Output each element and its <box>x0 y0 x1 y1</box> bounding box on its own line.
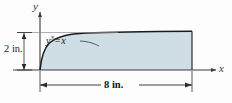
x-axis-arrow-icon <box>211 68 216 72</box>
x-axis-label: x <box>219 63 224 74</box>
width-dimension-label: 8 in. <box>104 80 123 91</box>
height-dimension-arrow-bottom-icon <box>22 64 27 70</box>
width-dimension-arrow-right-icon <box>185 83 192 88</box>
y-axis-arrow-icon <box>38 12 42 17</box>
height-dimension-arrow-top-icon <box>22 33 27 39</box>
height-dimension-label: 2 in. <box>4 44 23 55</box>
width-dimension-arrow-left-icon <box>40 83 47 88</box>
y-axis-label: y <box>33 1 38 12</box>
equation-rhs: x <box>61 35 65 46</box>
figure-container: y x 2 in. 8 in. y3=x <box>0 0 232 103</box>
curve-equation-label: y3=x <box>46 36 66 46</box>
